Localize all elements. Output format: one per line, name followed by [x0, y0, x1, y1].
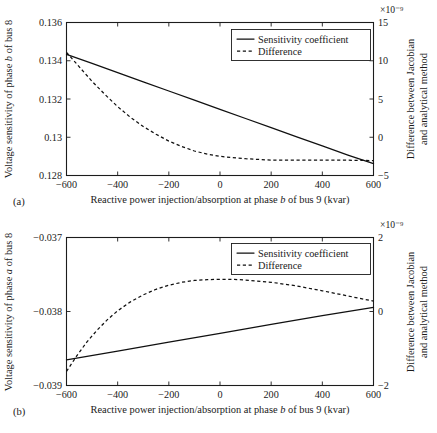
right-axis-exponent-a: ×10⁻⁹ — [380, 4, 404, 15]
right-axis-exponent-b: ×10⁻⁹ — [380, 219, 404, 230]
y-tick-label-right: 5 — [378, 94, 383, 105]
x-tick-label: −400 — [107, 389, 128, 400]
legend-label-difference-a: Difference — [258, 46, 302, 57]
y-axis-label-left-b: Voltage sensitivity of phase a of bus 8 — [3, 233, 14, 391]
x-tick-label: 0 — [217, 179, 222, 190]
y-tick-label-left: 0.128 — [39, 170, 62, 181]
y-tick-label-left: 0.132 — [39, 94, 62, 105]
subplot-b-canvas: −600−400−2000200400600−0.039−0.038−0.037… — [0, 217, 437, 433]
x-tick-label: 200 — [264, 179, 279, 190]
y-tick-label-left: 0.134 — [39, 55, 62, 66]
y-tick-label-right: 2 — [378, 232, 383, 243]
legend-label-sensitivity-a: Sensitivity coefficient — [258, 34, 349, 45]
subplot-a-canvas: −600−400−20002004006000.1280.130.1320.13… — [0, 0, 437, 216]
legend-b: Sensitivity coefficient Difference — [232, 244, 371, 275]
x-tick-label: 0 — [217, 389, 222, 400]
y-axis-label-right-line1-a: Difference between Jacobian — [405, 38, 416, 159]
y-axis-label-right-line2-b: and analytical method — [418, 265, 429, 358]
y-axis-label-right-line1-b: Difference between Jacobian — [405, 251, 416, 372]
x-tick-label: 200 — [264, 389, 279, 400]
y-tick-label-right: 15 — [378, 17, 388, 28]
series-difference-a — [67, 52, 374, 160]
x-tick-label: 400 — [315, 179, 330, 190]
legend-label-sensitivity-b: Sensitivity coefficient — [258, 248, 349, 259]
panel-tag-a: (a) — [13, 196, 25, 208]
y-tick-label-left: −0.038 — [33, 306, 62, 317]
x-axis-label-b: Reactive power injection/absorption at p… — [91, 404, 350, 416]
panel-tag-b: (b) — [13, 406, 26, 418]
y-tick-label-right: 10 — [378, 55, 388, 66]
x-tick-label: 400 — [315, 389, 330, 400]
series-difference-b — [67, 279, 374, 371]
y-tick-label-right: 0 — [378, 306, 383, 317]
legend-a: Sensitivity coefficient Difference — [232, 30, 371, 61]
x-tick-label: −200 — [158, 179, 179, 190]
series-sensitivity-coefficient-b — [67, 307, 374, 360]
y-tick-label-left: 0.13 — [44, 132, 62, 143]
figure-container: −600−400−20002004006000.1280.130.1320.13… — [0, 0, 437, 433]
y-tick-label-left: −0.037 — [33, 232, 62, 243]
x-tick-label: −200 — [158, 389, 179, 400]
legend-label-difference-b: Difference — [258, 260, 302, 271]
x-axis-label-a: Reactive power injection/absorption at p… — [91, 194, 350, 206]
y-tick-label-right: −5 — [378, 170, 389, 181]
y-tick-label-right: −2 — [378, 380, 389, 391]
x-tick-label: −400 — [107, 179, 128, 190]
subplot-b: −600−400−2000200400600−0.039−0.038−0.037… — [0, 217, 437, 433]
series-sensitivity-coefficient-a — [67, 54, 374, 163]
y-axis-label-right-line2-a: and analytical method — [418, 52, 429, 145]
y-tick-label-right: 0 — [378, 132, 383, 143]
subplot-a: −600−400−20002004006000.1280.130.1320.13… — [0, 0, 437, 216]
y-axis-label-left-a: Voltage sensitivity of phase b of bus 8 — [3, 20, 14, 178]
y-tick-label-left: −0.039 — [33, 380, 62, 391]
y-tick-label-left: 0.136 — [39, 17, 62, 28]
